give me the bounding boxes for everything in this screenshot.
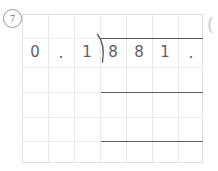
- divisor-decimal-point: .: [48, 40, 74, 64]
- quotient-vinculum: [101, 38, 203, 39]
- dividend-digit: 8: [126, 40, 152, 64]
- clipped-edge-glyph: (: [207, 14, 218, 36]
- dividend-digit: 1: [152, 40, 178, 64]
- dividend-decimal-point: .: [178, 40, 204, 64]
- worksheet-canvas: 7 0 . 1 8 8 1: [0, 0, 218, 171]
- divisor-digit: 0: [22, 40, 48, 64]
- first-subtraction-rule: [101, 92, 203, 93]
- second-subtraction-rule: [101, 141, 203, 142]
- problem-number-badge: 7: [3, 9, 22, 28]
